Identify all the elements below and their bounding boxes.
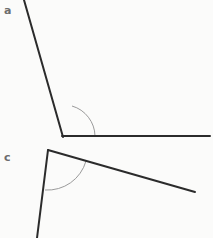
angle-a-upper-left-ray: [24, 0, 63, 137]
angle-c-arc: [45, 161, 86, 190]
angle-figure-canvas: a c: [0, 0, 213, 238]
angle-a-arc: [72, 106, 95, 136]
geometry-diagram: [0, 0, 213, 238]
angle-label-a: a: [4, 5, 11, 16]
angle-c-lower-left-ray: [37, 150, 48, 238]
angle-a-group: [24, 0, 210, 137]
angle-c-group: [37, 150, 195, 238]
angle-c-right-descending-ray: [48, 150, 195, 192]
angle-label-c: c: [4, 152, 11, 163]
